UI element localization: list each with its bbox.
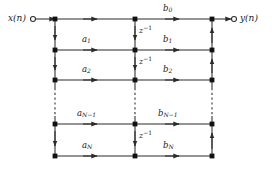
- coef-sub-a2: 2: [87, 67, 91, 74]
- coefficient-label-b-n-minus-1: bN−1: [158, 109, 178, 118]
- delay-label-3: z−1: [139, 130, 152, 140]
- node-right-row-2: [210, 78, 215, 83]
- coefficient-label-b0: b0: [163, 4, 172, 13]
- coef-sub-b2: 2: [168, 67, 172, 74]
- node-group: [53, 17, 215, 159]
- signal-flow-diagram: x(n) y(n) b0 b1 b2 bN−1 bN a1 a2 aN−1 aN…: [0, 0, 272, 176]
- output-label: y(n): [240, 14, 258, 23]
- coef-sub-an1: N−1: [82, 111, 96, 118]
- coefficient-label-a-n: aN: [82, 141, 92, 150]
- node-right-row-3: [210, 122, 215, 127]
- coef-sub-b0: 0: [168, 6, 172, 13]
- node-mid-row-3: [133, 122, 138, 127]
- input-label: x(n): [8, 14, 26, 23]
- coefficient-label-a1: a1: [82, 35, 91, 44]
- coef-sub-an: N: [87, 143, 92, 150]
- node-mid-row-2: [133, 78, 138, 83]
- coef-sub-b1: 1: [168, 37, 172, 44]
- delay-exponent-3: −1: [143, 129, 152, 136]
- node-left-row-2: [53, 78, 58, 83]
- node-left-row-4: [53, 154, 58, 159]
- wire-group: [36, 19, 231, 156]
- delay-exponent-2: −1: [143, 55, 152, 62]
- node-right-row-0: [210, 17, 215, 22]
- coefficient-label-a2: a2: [82, 65, 91, 74]
- coef-sub-bn: N: [168, 143, 173, 150]
- node-mid-row-1: [133, 48, 138, 53]
- node-right-row-4: [210, 154, 215, 159]
- node-left-row-3: [53, 122, 58, 127]
- node-left-row-1: [53, 48, 58, 53]
- delay-label-2: z−1: [139, 56, 152, 66]
- output-terminal: [232, 17, 237, 22]
- input-terminal: [31, 17, 36, 22]
- coef-sub-a1: 1: [87, 37, 91, 44]
- delay-exponent-1: −1: [143, 24, 152, 31]
- coefficient-label-b1: b1: [163, 35, 172, 44]
- coef-sub-bn1: N−1: [163, 111, 177, 118]
- flowgraph-canvas: [0, 0, 272, 176]
- coefficient-label-b2: b2: [163, 65, 172, 74]
- coefficient-label-a-n-minus-1: aN−1: [77, 109, 96, 118]
- node-mid-row-0: [133, 17, 138, 22]
- node-left-row-0: [53, 17, 58, 22]
- coefficient-label-b-n: bN: [163, 141, 174, 150]
- delay-label-1: z−1: [139, 25, 152, 35]
- node-right-row-1: [210, 48, 215, 53]
- node-mid-row-4: [133, 154, 138, 159]
